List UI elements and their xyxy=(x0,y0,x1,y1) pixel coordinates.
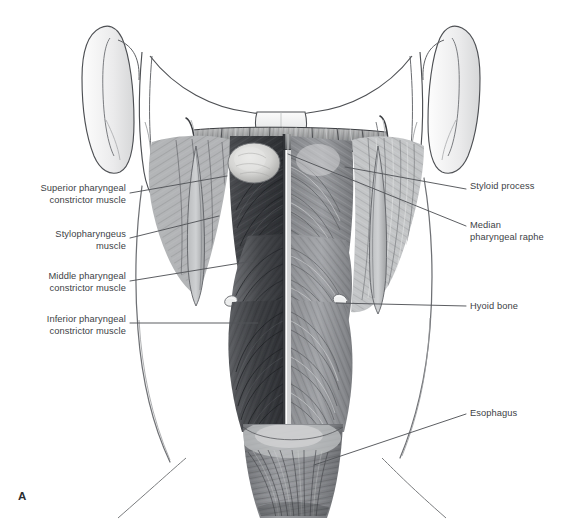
label-hyoid-bone: Hyoid bone xyxy=(470,301,550,313)
pharyngeal-tubercle xyxy=(228,143,280,183)
esophagus-tube xyxy=(241,418,343,522)
panel-letter: A xyxy=(18,490,26,502)
label-superior-pharyngeal-constrictor-muscle: Superior pharyngeal constrictor muscle xyxy=(14,183,126,206)
label-inferior-pharyngeal-constrictor-muscle: Inferior pharyngeal constrictor muscle xyxy=(14,314,126,337)
label-stylopharyngeus-muscle: Stylopharyngeus muscle xyxy=(24,229,126,252)
label-median-pharyngeal-raphe: Median pharyngeal raphe xyxy=(470,220,560,243)
label-styloid-process: Styloid process xyxy=(470,181,558,193)
anatomy-figure: Superior pharyngeal constrictor muscle S… xyxy=(0,0,562,522)
anatomy-illustration xyxy=(0,0,562,522)
label-esophagus: Esophagus xyxy=(470,408,550,420)
label-middle-pharyngeal-constrictor-muscle: Middle pharyngeal constrictor muscle xyxy=(14,271,126,294)
